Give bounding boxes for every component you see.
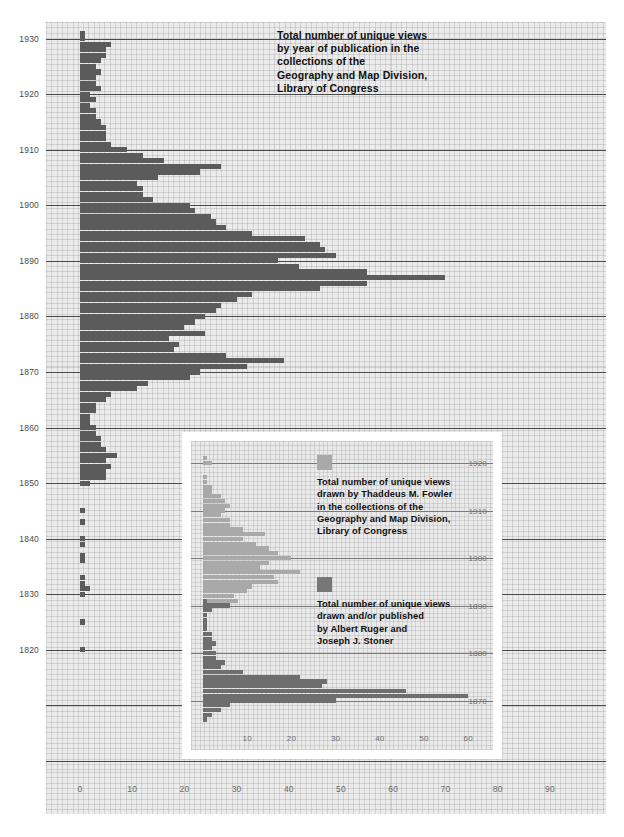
- x-tick-label: 50: [336, 784, 346, 794]
- bar: [80, 247, 325, 252]
- legend-label-line: Geography and Map Division,: [317, 513, 452, 525]
- bar: [80, 319, 195, 324]
- bar: [80, 558, 85, 563]
- bar: [80, 75, 96, 80]
- inset-bar-fowler: [203, 527, 243, 531]
- legend-label-line: Total number of unique views: [317, 598, 450, 610]
- inset-bar-fowler: [203, 556, 291, 560]
- legend-label-line: drawn and/or published: [317, 610, 450, 622]
- inset-bar-ruger: [203, 670, 243, 674]
- inset-bar-ruger: [203, 627, 207, 631]
- bar: [80, 436, 101, 441]
- inset-bar-fowler: [203, 508, 225, 512]
- bar: [80, 81, 96, 86]
- inset-bar-fowler: [203, 489, 212, 493]
- bar: [80, 575, 85, 580]
- inset-x-tick-label: 40: [375, 734, 384, 743]
- bar: [80, 264, 299, 269]
- main-chart-x-axis: 0102030405060708090: [46, 772, 606, 814]
- inset-bar-ruger: [203, 656, 216, 660]
- bar: [80, 158, 164, 163]
- inset-bar-ruger: [203, 689, 406, 693]
- inset-y-tick-label: 1880: [468, 649, 487, 658]
- bar: [80, 114, 96, 119]
- chart-page: 1930192019101900189018801870186018501840…: [0, 0, 624, 837]
- bar: [80, 208, 195, 213]
- bar: [80, 69, 101, 74]
- bar: [80, 236, 305, 241]
- bar: [80, 442, 101, 447]
- legend-label-line: in the collections of the: [317, 501, 452, 513]
- inset-bar-fowler: [203, 575, 274, 579]
- inset-bar-ruger: [203, 637, 212, 641]
- bar: [80, 269, 367, 274]
- bar: [80, 425, 96, 430]
- bar: [80, 369, 200, 374]
- x-tick-label: 60: [388, 784, 398, 794]
- bar: [80, 469, 106, 474]
- inset-x-tick-label: 60: [464, 734, 473, 743]
- bar: [80, 381, 148, 386]
- inset-x-tick-label: 10: [243, 734, 252, 743]
- bar: [80, 231, 252, 236]
- legend-label-line: drawn by Thaddeus M. Fowler: [317, 488, 452, 500]
- inset-gridline-y: [191, 653, 493, 654]
- bar: [80, 586, 90, 591]
- x-tick-label: 80: [493, 784, 503, 794]
- bar: [80, 519, 85, 524]
- bar: [80, 203, 190, 208]
- bar: [80, 397, 106, 402]
- inset-bar-fowler: [203, 546, 269, 550]
- bar: [80, 36, 85, 41]
- bar: [80, 103, 90, 108]
- inset-bar-ruger: [203, 694, 468, 698]
- y-tick-label: 1830: [19, 589, 39, 599]
- inset-bar-fowler: [203, 561, 269, 565]
- bar: [80, 347, 174, 352]
- bar: [80, 308, 216, 313]
- bar: [80, 553, 85, 558]
- bar: [80, 581, 85, 586]
- inset-bar-fowler: [203, 513, 221, 517]
- inset-bar-ruger: [203, 684, 322, 688]
- x-tick-label: 10: [127, 784, 137, 794]
- legend-entry-fowler: Total number of unique viewsdrawn by Tha…: [317, 455, 452, 537]
- inset-bar-fowler: [203, 542, 256, 546]
- y-tick-label: 1890: [19, 256, 39, 266]
- gridline-y: [46, 761, 606, 762]
- bar: [80, 358, 284, 363]
- inset-bar-fowler: [203, 532, 265, 536]
- legend-entry-ruger: Total number of unique viewsdrawn and/or…: [317, 577, 450, 647]
- inset-bar-ruger: [203, 641, 216, 645]
- page-title-line: collections of the: [277, 55, 527, 68]
- bar: [80, 242, 320, 247]
- bar: [80, 392, 111, 397]
- bar: [80, 92, 90, 97]
- bar: [80, 508, 85, 513]
- inset-y-tick-label: 1910: [468, 506, 487, 515]
- inset-bar-fowler: [203, 565, 260, 569]
- bar: [80, 475, 106, 480]
- inset-bar-ruger: [203, 698, 336, 702]
- inset-bar-ruger: [203, 622, 207, 626]
- inset-bar-ruger: [203, 708, 221, 712]
- x-tick-label: 20: [179, 784, 189, 794]
- bar: [80, 464, 111, 469]
- bar: [80, 403, 96, 408]
- inset-x-tick-label: 30: [331, 734, 340, 743]
- bar: [80, 536, 85, 541]
- inset-bar-fowler: [203, 523, 230, 527]
- inset-bar-fowler: [203, 551, 278, 555]
- inset-y-tick-label: 1870: [468, 696, 487, 705]
- bar: [80, 197, 153, 202]
- y-tick-label: 1930: [19, 34, 39, 44]
- bar: [80, 314, 205, 319]
- inset-bar-fowler: [203, 456, 207, 460]
- bar: [80, 386, 137, 391]
- bar: [80, 275, 445, 280]
- inset-bar-fowler: [203, 504, 230, 508]
- inset-bar-ruger: [203, 618, 207, 622]
- inset-bar-fowler: [203, 580, 278, 584]
- inset-x-tick-label: 50: [419, 734, 428, 743]
- bar: [80, 619, 85, 624]
